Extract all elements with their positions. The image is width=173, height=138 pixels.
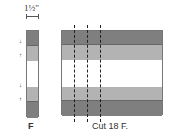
strip-band-dark-bottom xyxy=(27,102,38,118)
block-band-dark-top xyxy=(62,31,162,45)
block-band-medium-bottom xyxy=(62,87,162,101)
strip-label: F xyxy=(28,121,34,131)
cut-line xyxy=(74,25,75,122)
cut-caption: Cut 18 F. xyxy=(92,121,128,131)
cut-line xyxy=(100,25,101,122)
dimension-line xyxy=(26,16,39,17)
block-band-white xyxy=(62,60,162,87)
block-band-medium-top xyxy=(62,45,162,60)
strip-band-medium-top xyxy=(27,46,38,61)
strip-band-medium-bottom xyxy=(27,87,38,102)
strip-set-f xyxy=(26,30,39,117)
press-arrow-down-icon: ↓ xyxy=(18,82,23,88)
press-arrow-down-icon: ↓ xyxy=(18,38,23,44)
press-arrow-up-icon: ↑ xyxy=(18,96,23,102)
strip-set-block xyxy=(61,30,163,115)
cut-line xyxy=(87,25,88,122)
block-band-dark-bottom xyxy=(62,101,162,116)
strip-band-white xyxy=(27,61,38,87)
press-arrow-up-icon: ↑ xyxy=(18,52,23,58)
dimension-label: 1½" xyxy=(24,3,39,13)
strip-band-dark-top xyxy=(27,31,38,46)
